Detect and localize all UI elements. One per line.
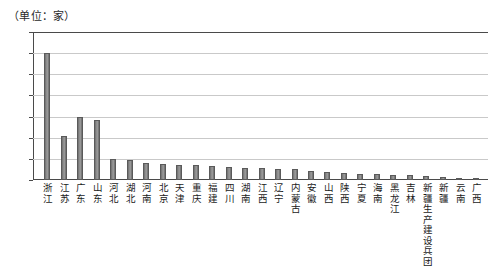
x-tick-label: 海南 xyxy=(372,183,383,204)
y-tick-mark xyxy=(29,180,33,181)
bar-chart: （单位：家） 140120100806040200 浙江江苏广东山东河北湖北河南… xyxy=(0,0,498,277)
bar-series xyxy=(33,32,488,180)
x-label-slot: 吉林 xyxy=(402,183,418,275)
bar-slot xyxy=(319,32,335,180)
bar-slot xyxy=(39,32,55,180)
bar[interactable] xyxy=(143,163,149,180)
bar[interactable] xyxy=(176,165,182,180)
unit-caption: （单位：家） xyxy=(8,10,76,23)
bar-slot xyxy=(154,32,170,180)
x-tick-label: 重庆 xyxy=(190,183,201,204)
x-label-slot: 湖北 xyxy=(121,183,137,275)
x-tick-label: 宁夏 xyxy=(355,183,366,204)
x-label-slot: 新疆生产建设兵团 xyxy=(418,183,434,275)
x-tick-label: 内蒙古 xyxy=(289,183,300,215)
bar[interactable] xyxy=(44,53,50,180)
x-label-slot: 河北 xyxy=(105,183,121,275)
x-label-slot: 重庆 xyxy=(187,183,203,275)
bar[interactable] xyxy=(341,173,347,180)
x-label-slot: 黑龙江 xyxy=(385,183,401,275)
bar-slot xyxy=(187,32,203,180)
bar[interactable] xyxy=(423,176,429,180)
x-tick-label: 陕西 xyxy=(339,183,350,204)
bar[interactable] xyxy=(226,167,232,180)
bar-slot xyxy=(402,32,418,180)
bar-slot xyxy=(336,32,352,180)
bar-slot xyxy=(138,32,154,180)
bar-slot xyxy=(171,32,187,180)
x-tick-label: 山西 xyxy=(322,183,333,204)
bar-slot xyxy=(435,32,451,180)
x-label-slot: 新疆 xyxy=(435,183,451,275)
bar[interactable] xyxy=(259,168,265,180)
x-label-slot: 广东 xyxy=(72,183,88,275)
x-tick-label: 福建 xyxy=(207,183,218,204)
x-label-slot: 江西 xyxy=(253,183,269,275)
bar-slot xyxy=(105,32,121,180)
x-tick-label: 新疆生产建设兵团 xyxy=(421,183,432,267)
x-label-slot: 广西 xyxy=(468,183,484,275)
x-tick-label: 云南 xyxy=(454,183,465,204)
bar-slot xyxy=(204,32,220,180)
bar[interactable] xyxy=(160,164,166,180)
x-label-slot: 宁夏 xyxy=(352,183,368,275)
x-tick-label: 吉林 xyxy=(405,183,416,204)
bar-slot xyxy=(352,32,368,180)
x-tick-label: 湖北 xyxy=(124,183,135,204)
bar[interactable] xyxy=(193,165,199,180)
bar-slot xyxy=(55,32,71,180)
x-label-slot: 云南 xyxy=(451,183,467,275)
bar-slot xyxy=(286,32,302,180)
bar[interactable] xyxy=(407,175,413,180)
x-label-slot: 山西 xyxy=(319,183,335,275)
bar[interactable] xyxy=(456,178,462,180)
bar[interactable] xyxy=(94,120,100,180)
bar-slot xyxy=(451,32,467,180)
bar-slot xyxy=(121,32,137,180)
bar[interactable] xyxy=(209,166,215,180)
x-tick-label: 山东 xyxy=(91,183,102,204)
x-tick-label: 江苏 xyxy=(58,183,69,204)
bar-slot xyxy=(418,32,434,180)
bar[interactable] xyxy=(308,171,314,181)
bar[interactable] xyxy=(390,175,396,180)
x-tick-label: 河南 xyxy=(141,183,152,204)
x-label-slot: 天津 xyxy=(171,183,187,275)
x-label-slot: 四川 xyxy=(220,183,236,275)
bar[interactable] xyxy=(473,178,479,180)
x-label-slot: 浙江 xyxy=(39,183,55,275)
bar[interactable] xyxy=(77,117,83,180)
bar[interactable] xyxy=(275,169,281,180)
bar[interactable] xyxy=(374,174,380,180)
bar-slot xyxy=(385,32,401,180)
x-label-slot: 河南 xyxy=(138,183,154,275)
x-label-slot: 福建 xyxy=(204,183,220,275)
bar-slot xyxy=(237,32,253,180)
bar[interactable] xyxy=(110,159,116,180)
x-tick-label: 安徽 xyxy=(306,183,317,204)
x-label-slot: 江苏 xyxy=(55,183,71,275)
bar-slot xyxy=(88,32,104,180)
x-tick-label: 天津 xyxy=(174,183,185,204)
bar[interactable] xyxy=(127,160,133,180)
x-tick-label: 浙江 xyxy=(42,183,53,204)
bar[interactable] xyxy=(242,168,248,180)
bar[interactable] xyxy=(324,172,330,180)
x-tick-label: 辽宁 xyxy=(273,183,284,204)
bar-slot xyxy=(369,32,385,180)
bar[interactable] xyxy=(357,174,363,180)
bar[interactable] xyxy=(61,136,67,180)
bar-slot xyxy=(303,32,319,180)
bar-slot xyxy=(253,32,269,180)
x-tick-label: 黑龙江 xyxy=(388,183,399,215)
x-tick-label: 河北 xyxy=(108,183,119,204)
bar-slot xyxy=(270,32,286,180)
x-tick-label: 江西 xyxy=(256,183,267,204)
x-tick-label: 四川 xyxy=(223,183,234,204)
bar[interactable] xyxy=(440,177,446,180)
plot-area: 140120100806040200 xyxy=(33,32,488,180)
bar-slot xyxy=(220,32,236,180)
x-tick-label: 湖南 xyxy=(240,183,251,204)
bar[interactable] xyxy=(292,169,298,180)
x-label-slot: 湖南 xyxy=(237,183,253,275)
